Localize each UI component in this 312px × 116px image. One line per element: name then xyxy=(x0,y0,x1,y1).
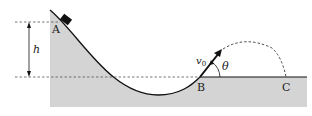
angle-label: θ xyxy=(222,60,229,73)
velocity-label: v0 xyxy=(196,55,206,68)
track-ground-region xyxy=(50,10,307,107)
point-c-label: C xyxy=(282,81,290,94)
projectile-trajectory xyxy=(223,42,286,77)
point-a-label: A xyxy=(51,23,61,36)
physics-diagram: h A v0 θ B C xyxy=(0,0,312,116)
height-label: h xyxy=(33,43,40,56)
angle-arc xyxy=(212,62,220,77)
point-b-label: B xyxy=(197,81,205,94)
height-arrow xyxy=(27,22,31,77)
